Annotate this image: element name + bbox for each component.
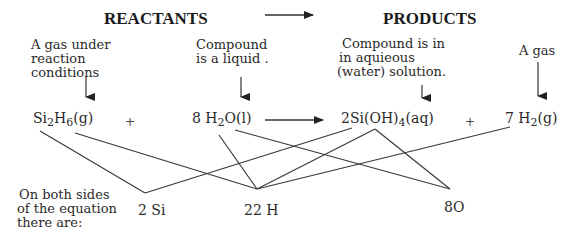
note-si2h6-line: A gas under [31, 38, 110, 52]
summary-line: there are: [17, 216, 117, 230]
line-si2h6-to-h [75, 133, 257, 189]
formula-part: H [54, 110, 66, 126]
note-h2-line: A gas [519, 44, 555, 58]
plus-sign: + [465, 116, 475, 128]
note-h2o-line: is a liquid . [196, 52, 269, 66]
note-si2h6-line: conditions [31, 66, 110, 80]
state-label: (g) [538, 110, 558, 126]
formula-part: 2Si(OH) [341, 110, 399, 126]
si-count: 2 Si [138, 203, 165, 217]
subscript: 2 [531, 116, 538, 129]
products-header: PRODUCTS [383, 10, 477, 27]
note-h2o-line: Compound [196, 38, 269, 52]
line-si2h6-to-si [40, 131, 145, 193]
reactants-header: REACTANTS [104, 10, 208, 27]
line-h2o-to-h [219, 135, 257, 189]
state-label: (aq) [406, 110, 434, 126]
note-sioh4: Compound is in in aquieous (water) solut… [337, 37, 446, 79]
note-h2o: Compound is a liquid . [196, 38, 269, 66]
subscript: 4 [399, 116, 406, 129]
state-label: (g) [73, 110, 93, 126]
line-h2o-to-o [235, 130, 450, 189]
summary-line: On both sides [17, 188, 117, 202]
formula-part: 7 H [505, 110, 531, 126]
formula-part: O(l) [225, 110, 252, 126]
formula-part: Si [33, 110, 47, 126]
note-sioh4-line: (water) solution. [337, 65, 446, 79]
note-sioh4-line: in aquieous [337, 51, 446, 65]
product-sioh4: 2Si(OH)4(aq) [341, 111, 434, 125]
formula-part: 8 H [192, 110, 218, 126]
plus-sign: + [125, 116, 135, 128]
note-h2: A gas [519, 44, 555, 58]
line-h-to-sioh4 [257, 129, 375, 189]
summary-line: of the equation [17, 202, 117, 216]
note-sioh4-line: Compound is in [337, 37, 446, 51]
line-si-to-sioh4 [145, 128, 352, 193]
note-si2h6-line: reaction [31, 52, 110, 66]
reactant-h2o: 8 H2O(l) [192, 111, 251, 125]
h-count: 22 H [244, 203, 278, 217]
subscript: 2 [218, 116, 225, 129]
note-si2h6: A gas under reaction conditions [31, 38, 110, 80]
reactant-si2h6: Si2H6(g) [33, 111, 93, 125]
o-count: 8O [444, 200, 464, 214]
summary-label: On both sides of the equation there are: [17, 188, 117, 230]
product-h2: 7 H2(g) [505, 111, 557, 125]
line-sioh4-to-o [375, 129, 450, 189]
